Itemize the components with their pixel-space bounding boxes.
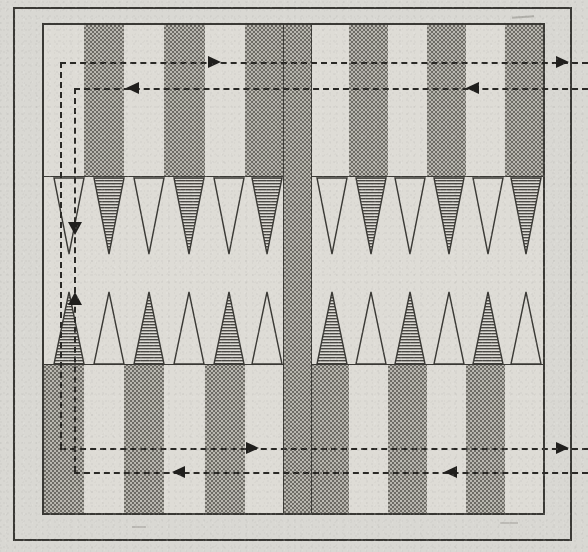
point-bottom-right-2 bbox=[354, 291, 388, 365]
center-bar bbox=[283, 25, 312, 513]
column-fill-dark bbox=[349, 25, 388, 177]
point-top-left-2 bbox=[92, 177, 126, 255]
point-bottom-right-5 bbox=[471, 291, 505, 365]
print-smudge bbox=[500, 522, 518, 524]
point-top-left-5 bbox=[212, 177, 246, 255]
point-top-right-1 bbox=[315, 177, 349, 255]
point-bottom-left-5 bbox=[212, 291, 246, 365]
column-fill-dark bbox=[205, 364, 245, 513]
column-fill-light bbox=[310, 25, 349, 177]
column-fill-dark bbox=[124, 364, 164, 513]
point-bottom-right-4 bbox=[432, 291, 466, 365]
point-top-right-3 bbox=[393, 177, 427, 255]
point-top-left-3 bbox=[132, 177, 166, 255]
column-fill-light bbox=[245, 364, 283, 513]
column-fill-light bbox=[124, 25, 164, 177]
column-fill-light bbox=[164, 364, 205, 513]
point-bottom-left-3 bbox=[132, 291, 166, 365]
point-top-right-4 bbox=[432, 177, 466, 255]
point-bottom-left-2 bbox=[92, 291, 126, 365]
point-bottom-right-6 bbox=[509, 291, 543, 365]
column-fill-light bbox=[349, 364, 388, 513]
quadrant-top-right bbox=[310, 25, 543, 177]
column-fill-dark bbox=[164, 25, 205, 177]
column-fill-dark bbox=[310, 364, 349, 513]
column-fill-light bbox=[466, 25, 505, 177]
point-top-left-6 bbox=[250, 177, 284, 255]
column-fill-dark bbox=[245, 25, 283, 177]
column-fill-light bbox=[84, 364, 124, 513]
column-fill-light bbox=[205, 25, 245, 177]
quadrant-bottom-right bbox=[310, 364, 543, 513]
quadrant-top-left bbox=[44, 25, 283, 177]
point-top-left-1 bbox=[52, 177, 86, 255]
point-top-right-5 bbox=[471, 177, 505, 255]
column-fill-dark bbox=[44, 364, 84, 513]
point-bottom-left-4 bbox=[172, 291, 206, 365]
column-fill-dark bbox=[505, 25, 543, 177]
column-fill-light bbox=[388, 25, 427, 177]
backgammon-diagram bbox=[0, 0, 588, 552]
column-fill-dark bbox=[388, 364, 427, 513]
column-fill-dark bbox=[466, 364, 505, 513]
quadrant-bottom-left bbox=[44, 364, 283, 513]
point-bottom-left-1 bbox=[52, 291, 86, 365]
point-bottom-right-1 bbox=[315, 291, 349, 365]
column-fill-light bbox=[44, 25, 84, 177]
point-top-left-4 bbox=[172, 177, 206, 255]
point-bottom-right-3 bbox=[393, 291, 427, 365]
point-bottom-left-6 bbox=[250, 291, 284, 365]
print-smudge bbox=[132, 526, 146, 528]
column-fill-light bbox=[427, 364, 466, 513]
point-top-right-6 bbox=[509, 177, 543, 255]
point-top-right-2 bbox=[354, 177, 388, 255]
board bbox=[42, 23, 545, 515]
column-fill-dark bbox=[84, 25, 124, 177]
column-fill-dark bbox=[427, 25, 466, 177]
column-fill-light bbox=[505, 364, 543, 513]
